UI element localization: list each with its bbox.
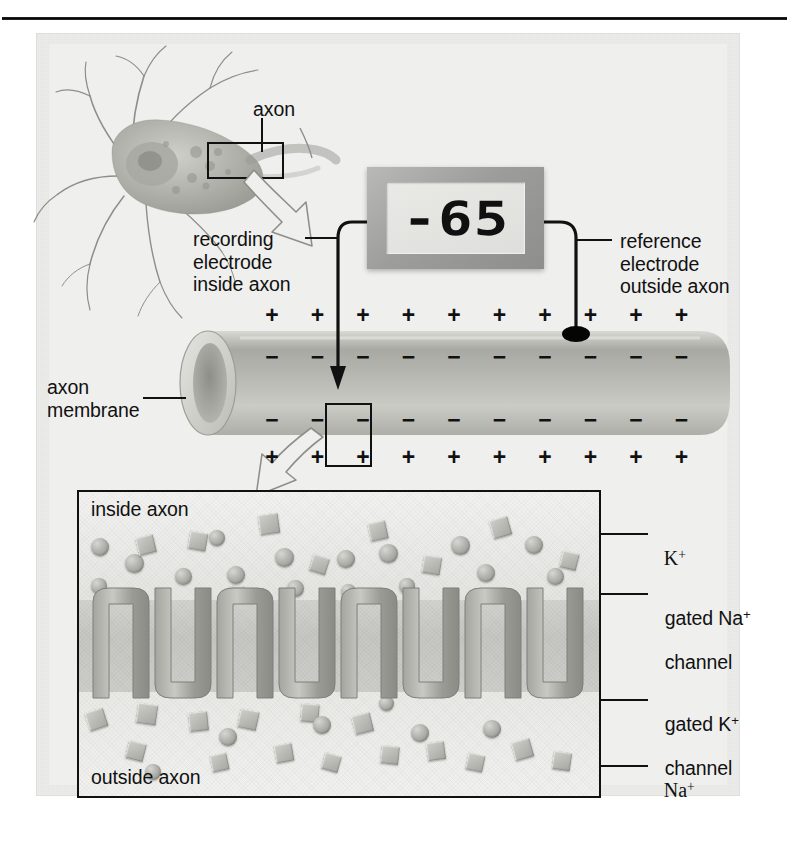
charge-symbol: −: [672, 410, 692, 430]
gated-k-channel: [527, 588, 583, 698]
charge-symbol: +: [490, 305, 510, 325]
charge-symbol: +: [490, 447, 510, 467]
charge-symbol: −: [444, 347, 464, 367]
membrane-detail-panel: inside axon outside axon: [77, 490, 601, 798]
voltmeter[interactable]: -65: [367, 167, 544, 269]
charge-symbol: +: [581, 447, 601, 467]
superscript-plus-na-channel: +: [743, 607, 751, 622]
charge-symbol: +: [444, 305, 464, 325]
charge-symbol: −: [626, 347, 646, 367]
charge-symbol: −: [308, 410, 328, 430]
charge-symbol: +: [353, 447, 373, 467]
charge-symbol: +: [626, 305, 646, 325]
charge-symbol: −: [581, 347, 601, 367]
superscript-plus-k-channel: +: [731, 713, 739, 728]
label-reference-electrode: reference electrode outside axon: [620, 230, 729, 298]
charge-symbol: −: [444, 410, 464, 430]
charge-symbol: −: [399, 347, 419, 367]
charge-symbol: −: [490, 410, 510, 430]
gated-k-channel: [155, 588, 211, 698]
charge-symbol: +: [535, 447, 555, 467]
charge-symbol: +: [535, 305, 555, 325]
label-outside-axon: outside axon: [91, 766, 200, 789]
gated-na-channel: [93, 588, 149, 698]
charge-symbol: −: [308, 347, 328, 367]
charge-symbol: +: [672, 305, 692, 325]
charge-symbol: −: [490, 347, 510, 367]
gated-k-channel: [403, 588, 459, 698]
voltmeter-reading: -65: [401, 191, 509, 246]
callout-text-na-channel-2: channel: [665, 651, 733, 673]
charge-symbol: +: [262, 305, 282, 325]
ion-channel-layer: [79, 492, 599, 796]
label-sodium-ion: Na+: [654, 753, 695, 801]
label-gated-na-channel: gated Na+ channel: [654, 581, 751, 674]
superscript-plus-k: +: [678, 547, 686, 562]
charge-symbol: +: [444, 447, 464, 467]
gated-na-channel: [217, 588, 273, 698]
callout-text-k-channel: gated K: [665, 712, 732, 734]
charge-symbol: −: [535, 347, 555, 367]
header-rule: [2, 17, 787, 20]
callout-text-na: Na: [664, 778, 687, 800]
charge-symbol: −: [262, 410, 282, 430]
label-recording-electrode: recording electrode inside axon: [193, 228, 291, 296]
label-potassium-ion: K+: [654, 521, 686, 569]
charge-symbol: −: [672, 347, 692, 367]
gated-na-channel: [465, 588, 521, 698]
charge-symbol: +: [262, 447, 282, 467]
charge-symbol: −: [353, 410, 373, 430]
charge-symbol: +: [308, 447, 328, 467]
charge-symbol: −: [399, 410, 419, 430]
charge-symbol: +: [672, 447, 692, 467]
charge-symbol: +: [399, 305, 419, 325]
charge-symbol: −: [353, 347, 373, 367]
label-axon: axon: [253, 98, 295, 121]
charge-symbol: −: [262, 347, 282, 367]
superscript-plus-na: +: [687, 779, 695, 794]
charge-symbol: +: [308, 305, 328, 325]
voltmeter-screen: -65: [386, 182, 525, 254]
callout-text-k: K: [664, 546, 678, 568]
charge-symbol: +: [399, 447, 419, 467]
label-inside-axon: inside axon: [91, 498, 189, 521]
charge-symbol: −: [626, 410, 646, 430]
charge-symbol: −: [581, 410, 601, 430]
charge-symbol: +: [581, 305, 601, 325]
gated-na-channel: [341, 588, 397, 698]
callout-text-na-channel: gated Na: [665, 606, 743, 628]
label-axon-membrane: axon membrane: [47, 376, 139, 421]
charge-symbol: −: [535, 410, 555, 430]
charge-symbol: +: [353, 305, 373, 325]
gated-k-channel: [279, 588, 335, 698]
charge-symbol: +: [626, 447, 646, 467]
